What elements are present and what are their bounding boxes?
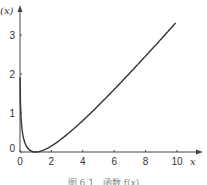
y-axis-label: (x): [0, 5, 14, 16]
x-tick-label: 10: [171, 156, 183, 167]
x-tick-label: 2: [49, 156, 55, 167]
x-axis-label: x: [190, 156, 196, 167]
x-ticks: 0246810: [17, 150, 183, 167]
chart: 0246810 0123 x (x): [0, 0, 207, 185]
y-tick-label: 3: [9, 30, 15, 41]
x-tick-label: 6: [111, 156, 117, 167]
x-axis-arrow-icon: [196, 150, 203, 155]
y-tick-label: 2: [9, 69, 15, 80]
x-tick-label: 8: [143, 156, 149, 167]
y-axis-arrow-icon: [18, 5, 23, 12]
y-tick-label: 1: [9, 108, 15, 119]
figure-caption: 图 6.1 函数 f(x): [0, 176, 207, 185]
x-tick-label: 0: [17, 156, 23, 167]
y-tick-label: 0: [9, 143, 15, 154]
data-curve: [20, 23, 176, 152]
x-tick-label: 4: [80, 156, 86, 167]
